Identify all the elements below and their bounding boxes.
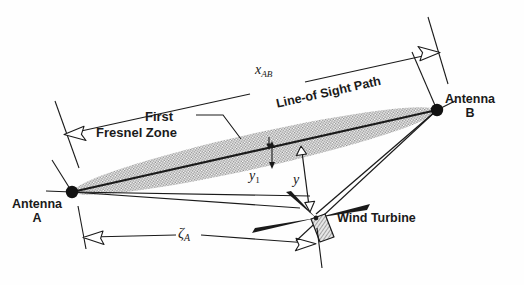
label-antenna-a-line1: Antenna <box>12 198 62 212</box>
label-zeta-a: ζA <box>178 225 190 243</box>
label-fresnel-zone: Fresnel Zone <box>96 126 177 140</box>
dimension-line-zeta-a <box>78 206 322 268</box>
label-x-ab: xAB <box>255 62 273 80</box>
label-antenna-a: Antenna A <box>12 198 62 225</box>
label-first: First <box>145 110 173 124</box>
label-antenna-a-line2: A <box>12 212 62 226</box>
label-y1: y1 <box>249 168 260 186</box>
fresnel-zone-diagram: xAB Antenna B Antenna A First Fresnel Zo… <box>0 0 524 285</box>
label-x-ab-subscript: AB <box>261 69 272 79</box>
diagram-vector-layer <box>0 0 524 285</box>
label-wind-turbine: Wind Turbine <box>337 212 416 226</box>
label-zeta-a-subscript: A <box>184 232 190 243</box>
label-antenna-b-line2: B <box>445 107 495 121</box>
label-y1-subscript: 1 <box>255 175 260 185</box>
label-antenna-b: Antenna B <box>445 93 495 120</box>
leader-line-fresnel-zone <box>196 115 241 139</box>
label-y: y <box>293 172 299 187</box>
label-antenna-b-line1: Antenna <box>445 93 495 107</box>
